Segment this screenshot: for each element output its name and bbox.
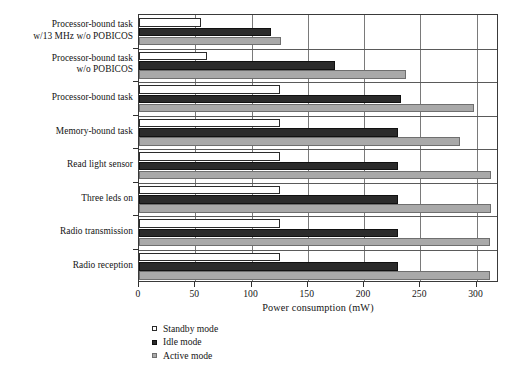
bar-idle-mode-4 (139, 162, 398, 171)
x-axis-title: Power consumption (mW) (138, 302, 498, 313)
legend-label: Active mode (163, 349, 212, 362)
bar-active-mode-1 (139, 70, 406, 79)
bar-idle-mode-6 (139, 229, 398, 238)
bar-idle-mode-0 (139, 28, 271, 37)
bar-standby-mode-7 (139, 253, 280, 262)
category-separator (139, 49, 497, 50)
category-label-6: Radio transmission (0, 226, 133, 237)
bar-standby-mode-1 (139, 52, 207, 61)
plot-area (138, 14, 498, 282)
category-tick (133, 115, 138, 116)
bar-active-mode-4 (139, 171, 491, 180)
bar-standby-mode-4 (139, 152, 280, 161)
bar-standby-mode-0 (139, 18, 201, 27)
open-square-marker (152, 326, 157, 331)
bar-standby-mode-6 (139, 219, 280, 228)
category-separator (139, 82, 497, 83)
bar-idle-mode-5 (139, 195, 398, 204)
x-tick-mark-150 (307, 282, 308, 287)
x-tick-mark-300 (476, 282, 477, 287)
x-tick-label-0: 0 (118, 288, 158, 299)
category-separator (139, 250, 497, 251)
bar-active-mode-2 (139, 104, 474, 113)
category-tick (133, 148, 138, 149)
legend-label: Standby mode (163, 322, 218, 335)
category-tick (133, 215, 138, 216)
bar-idle-mode-1 (139, 61, 335, 70)
category-label-4: Read light sensor (0, 159, 133, 170)
category-label-line: Read light sensor (0, 159, 133, 170)
category-tick (133, 182, 138, 183)
category-label-line: w/13 MHz w/o POBICOS (0, 31, 133, 42)
category-label-0: Processor-bound taskw/13 MHz w/o POBICOS (0, 19, 133, 42)
x-tick-label-150: 150 (287, 288, 327, 299)
category-label-line: Processor-bound task (0, 53, 133, 64)
category-label-line: Processor-bound task (0, 92, 133, 103)
category-tick (133, 81, 138, 82)
legend-item-idle-mode: Idle mode (152, 335, 218, 348)
category-label-line: Radio transmission (0, 226, 133, 237)
bar-idle-mode-3 (139, 128, 398, 137)
legend-item-active-mode: Active mode (152, 349, 218, 362)
filled-gray-square-marker (152, 353, 157, 358)
x-tick-mark-200 (363, 282, 364, 287)
category-label-line: Processor-bound task (0, 19, 133, 30)
category-label-3: Memory-bound task (0, 126, 133, 137)
x-tick-mark-50 (194, 282, 195, 287)
bar-standby-mode-2 (139, 85, 280, 94)
bar-standby-mode-3 (139, 119, 280, 128)
category-separator (139, 149, 497, 150)
category-tick (133, 249, 138, 250)
category-label-1: Processor-bound taskw/o POBICOS (0, 53, 133, 76)
category-separator (139, 116, 497, 117)
bar-active-mode-3 (139, 137, 460, 146)
category-label-7: Radio reception (0, 260, 133, 271)
bar-active-mode-7 (139, 271, 490, 280)
bar-active-mode-0 (139, 37, 281, 46)
filled-dark-square-marker (152, 340, 157, 345)
legend-item-standby-mode: Standby mode (152, 322, 218, 335)
category-tick (133, 48, 138, 49)
category-label-line: Memory-bound task (0, 126, 133, 137)
bar-active-mode-6 (139, 238, 490, 247)
category-separator (139, 183, 497, 184)
category-label-2: Processor-bound task (0, 92, 133, 103)
category-label-line: Three leds on (0, 193, 133, 204)
bar-standby-mode-5 (139, 186, 280, 195)
x-tick-label-50: 50 (174, 288, 214, 299)
x-tick-mark-250 (419, 282, 420, 287)
x-tick-mark-100 (251, 282, 252, 287)
x-tick-label-300: 300 (456, 288, 496, 299)
chart-legend: Standby modeIdle modeActive mode (152, 322, 218, 362)
category-label-line: w/o POBICOS (0, 64, 133, 75)
bar-idle-mode-7 (139, 262, 398, 271)
bar-idle-mode-2 (139, 95, 401, 104)
category-label-line: Radio reception (0, 260, 133, 271)
x-tick-label-100: 100 (231, 288, 271, 299)
legend-label: Idle mode (163, 335, 202, 348)
category-label-5: Three leds on (0, 193, 133, 204)
x-tick-mark-0 (138, 282, 139, 287)
x-tick-label-200: 200 (343, 288, 383, 299)
power-consumption-bar-chart: Processor-bound taskw/13 MHz w/o POBICOS… (0, 0, 522, 372)
x-tick-label-250: 250 (399, 288, 439, 299)
bar-active-mode-5 (139, 204, 491, 213)
category-separator (139, 216, 497, 217)
